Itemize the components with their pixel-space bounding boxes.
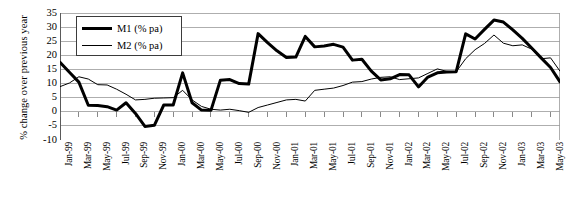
- y-tick-label: 5: [33, 92, 57, 102]
- x-tick-label: Jan-00: [177, 142, 187, 166]
- legend-entry-m1: M1 (% pa): [82, 20, 176, 37]
- x-tick-label: Jan-99: [64, 142, 74, 166]
- legend-label-m2: M2 (% pa): [117, 40, 163, 51]
- x-tick-label: May-01: [328, 142, 338, 171]
- y-tick-label: 30: [33, 22, 57, 32]
- legend-swatch-m1-icon: [82, 27, 112, 30]
- y-axis-title: % change over previous year: [18, 8, 29, 148]
- y-tick-label: -10: [33, 135, 57, 145]
- x-tick-label: Jul-02: [460, 142, 470, 165]
- x-tick-label: May-03: [555, 142, 565, 171]
- y-axis-tick-labels: 35302520151050-5-10: [30, 13, 57, 140]
- x-tick-label: Nov-00: [272, 142, 282, 170]
- x-tick-label: May-00: [215, 142, 225, 171]
- x-tick-label: Sep-02: [479, 142, 489, 168]
- y-tick-label: 35: [33, 8, 57, 18]
- y-tick-label: 10: [33, 78, 57, 88]
- y-tick-label: 25: [33, 36, 57, 46]
- y-tick-label: 15: [33, 64, 57, 74]
- x-tick-label: Mar-03: [536, 142, 546, 169]
- legend-swatch-m2-icon: [82, 45, 112, 46]
- x-axis-tick-labels: Jan-99Mar-99May-99Jul-99Sep-99Nov-99Jan-…: [60, 142, 560, 200]
- x-tick-label: Jul-01: [347, 142, 357, 165]
- x-tick-label: Jul-99: [121, 142, 131, 165]
- y-tick-label: -5: [33, 120, 57, 130]
- x-tick-label: Nov-02: [498, 142, 508, 170]
- x-tick-label: Sep-01: [366, 142, 376, 168]
- x-tick-label: May-99: [102, 142, 112, 171]
- x-tick-label: Jan-02: [404, 142, 414, 166]
- legend-label-m1: M1 (% pa): [117, 23, 163, 34]
- x-tick-label: Sep-99: [139, 142, 149, 168]
- chart-container: % change over previous year 353025201510…: [0, 0, 569, 200]
- y-tick-label: 20: [33, 50, 57, 60]
- x-tick-label: Mar-02: [422, 142, 432, 169]
- x-tick-label: Mar-01: [309, 142, 319, 169]
- x-tick-label: Jul-00: [234, 142, 244, 165]
- x-tick-label: May-02: [441, 142, 451, 171]
- x-tick-label: Mar-00: [196, 142, 206, 169]
- x-tick-label: Mar-99: [83, 142, 93, 169]
- x-tick-label: Nov-99: [158, 142, 168, 170]
- legend-entry-m2: M2 (% pa): [82, 37, 176, 54]
- x-tick-label: Nov-01: [385, 142, 395, 170]
- x-tick-label: Jan-03: [517, 142, 527, 166]
- x-tick-label: Jan-01: [290, 142, 300, 166]
- y-tick-label: 0: [33, 106, 57, 116]
- x-tick-label: Sep-00: [253, 142, 263, 168]
- chart-legend: M1 (% pa) M2 (% pa): [76, 16, 182, 56]
